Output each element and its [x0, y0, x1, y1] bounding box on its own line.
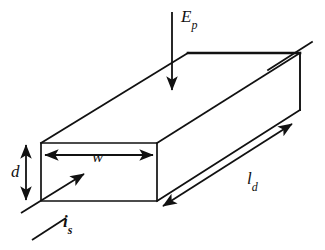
- label-width-base: w: [92, 147, 103, 166]
- top-left-depth-edge: [41, 53, 188, 143]
- slab-geometry-figure: Ep w d ld is: [0, 0, 325, 250]
- label-depth-base: d: [11, 162, 20, 181]
- top-extension-line: [268, 42, 312, 70]
- label-source-current-sub: s: [68, 223, 73, 237]
- label-length: ld: [247, 170, 258, 190]
- label-length-sub: d: [252, 180, 258, 194]
- label-incident-power-sub: p: [191, 18, 197, 32]
- figure-canvas: [0, 0, 325, 250]
- label-incident-power-base: E: [181, 7, 191, 26]
- length-dimension-arrow: [163, 124, 292, 206]
- label-width: w: [92, 148, 103, 165]
- source-current-tail: [32, 218, 66, 240]
- source-current-arrow: [21, 174, 84, 213]
- label-incident-power: Ep: [181, 8, 197, 28]
- label-depth: d: [11, 163, 20, 180]
- box-right-face: [157, 53, 300, 201]
- bottom-right-depth-edge: [157, 110, 300, 201]
- top-right-depth-edge: [157, 53, 300, 143]
- label-source-current: is: [63, 213, 72, 233]
- box-top-face: [41, 53, 300, 143]
